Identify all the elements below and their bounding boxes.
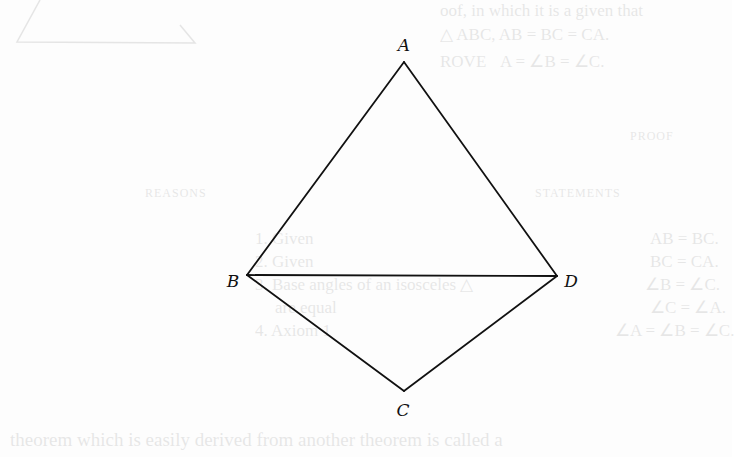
vertex-label-d: D xyxy=(564,273,578,290)
vertex-label-a: A xyxy=(398,37,410,54)
segment-bd xyxy=(247,275,557,276)
vertex-label-c: C xyxy=(396,402,409,419)
segment-ad xyxy=(404,62,557,276)
segment-ab xyxy=(247,62,404,275)
segment-cd xyxy=(404,276,557,391)
segment-bc xyxy=(247,275,404,391)
vertex-label-b: B xyxy=(227,273,240,290)
